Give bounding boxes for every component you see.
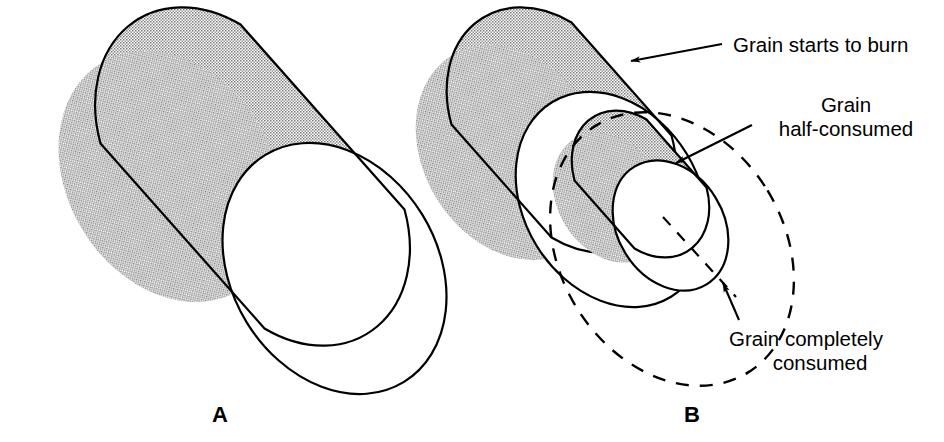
panel-a-caption: A bbox=[212, 402, 228, 427]
figure-canvas: A Grain starts to burn Grain bbox=[0, 0, 944, 442]
leader-grain-completely-consumed bbox=[723, 283, 739, 320]
callout-grain-half-consumed-line2: half-consumed bbox=[779, 117, 913, 140]
panel-a: A bbox=[13, 7, 492, 435]
diagram-svg: A Grain starts to burn Grain bbox=[0, 0, 944, 442]
callout-grain-completely-consumed-line2: consumed bbox=[773, 351, 868, 374]
callout-grain-completely-consumed-line1: Grain completely bbox=[729, 327, 884, 350]
leader-grain-half-consumed bbox=[676, 125, 752, 163]
panel-b-caption: B bbox=[684, 402, 700, 427]
callout-grain-half-consumed-line1: Grain bbox=[821, 93, 871, 116]
callout-labels: Grain starts to burn Grain half-consumed… bbox=[729, 33, 913, 374]
leader-grain-starts-to-burn bbox=[631, 44, 722, 61]
callout-grain-starts-to-burn: Grain starts to burn bbox=[733, 33, 908, 56]
